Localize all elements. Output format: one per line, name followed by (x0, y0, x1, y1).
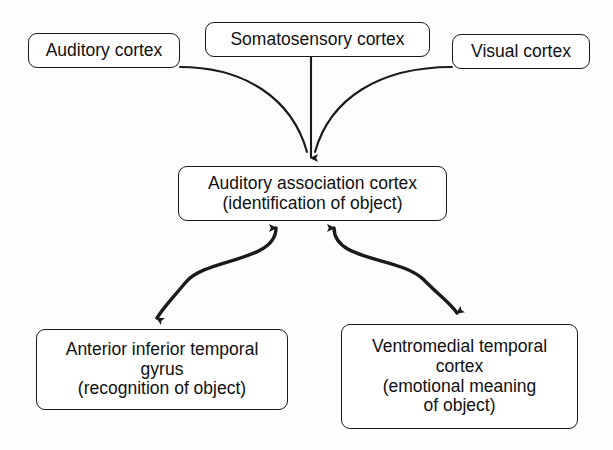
node-ventromedial-temporal-cortex-line-3: (emotional meaning (383, 377, 537, 397)
node-anterior-inferior-temporal-gyrus-line-1: Anterior inferior temporal (66, 340, 259, 360)
node-ventromedial-temporal-cortex-line-2: cortex (436, 357, 484, 377)
node-visual-cortex[interactable]: Visual cortex (452, 34, 590, 69)
node-ventromedial-temporal-cortex-line-4: of object) (424, 396, 496, 416)
node-anterior-inferior-temporal-gyrus-line-2: gyrus (141, 360, 184, 380)
connector-association-to-ventromedial-cortex (334, 228, 457, 313)
node-auditory-association-cortex-line-2: (identification of object) (223, 194, 403, 214)
diagram-canvas: Auditory cortex Somatosensory cortex Vis… (0, 0, 613, 450)
node-ventromedial-temporal-cortex[interactable]: Ventromedial temporal cortex (emotional … (341, 324, 578, 429)
node-auditory-association-cortex[interactable]: Auditory association cortex (identificat… (178, 166, 447, 221)
node-anterior-inferior-temporal-gyrus-line-3: (recognition of object) (78, 379, 246, 399)
node-anterior-inferior-temporal-gyrus[interactable]: Anterior inferior temporal gyrus (recogn… (36, 329, 288, 410)
connector-association-to-anterior-gyrus (157, 228, 276, 318)
connector-visual-to-association (315, 67, 452, 152)
node-auditory-cortex-line-1: Auditory cortex (46, 41, 163, 61)
node-auditory-cortex[interactable]: Auditory cortex (28, 33, 180, 68)
node-auditory-association-cortex-line-1: Auditory association cortex (208, 174, 417, 194)
node-ventromedial-temporal-cortex-line-1: Ventromedial temporal (372, 337, 547, 357)
connector-auditory-to-association (180, 67, 307, 152)
node-somatosensory-cortex[interactable]: Somatosensory cortex (205, 22, 430, 57)
node-somatosensory-cortex-line-1: Somatosensory cortex (230, 30, 404, 50)
node-visual-cortex-line-1: Visual cortex (471, 42, 571, 62)
